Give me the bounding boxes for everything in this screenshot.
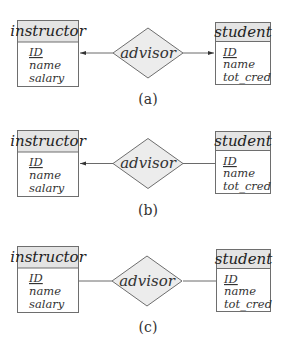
student-entity: student ID name tot_cred (215, 250, 274, 312)
student-entity: student ID name tot_cred (214, 132, 273, 194)
entity-attribute: salary (29, 297, 65, 311)
entity-attribute: name (29, 168, 61, 182)
entity-attribute: tot_cred (223, 179, 271, 193)
instructor-entity: instructor ID name salary (10, 247, 86, 313)
advisor-relationship: advisor (113, 139, 183, 189)
student-entity: student ID name tot_cred (214, 23, 273, 85)
entity-attribute-pk: ID (28, 271, 43, 285)
diagram-caption: (c) (139, 319, 158, 335)
diagram-a: instructor ID name salary advisor studen… (10, 21, 273, 108)
entity-attribute: name (223, 166, 255, 180)
entity-attribute: name (29, 284, 61, 298)
entity-attribute: tot_cred (224, 297, 272, 311)
entity-attribute: name (224, 284, 256, 298)
entity-attribute: salary (29, 181, 65, 195)
entity-title: student (214, 23, 273, 41)
diagram-b: instructor ID name salary advisor studen… (10, 131, 273, 219)
relationship-label: advisor (120, 44, 177, 62)
relationship-label: advisor (120, 154, 177, 172)
relationship-label: advisor (119, 272, 176, 290)
arrowhead-icon (80, 162, 86, 166)
entity-attribute-pk: ID (28, 45, 43, 59)
diagram-caption: (a) (138, 91, 157, 107)
arrowhead-icon (208, 51, 214, 55)
diagram-caption: (b) (138, 202, 158, 218)
entity-attribute: name (29, 58, 61, 72)
entity-title: student (215, 250, 274, 268)
entity-attribute: salary (29, 71, 65, 85)
instructor-entity: instructor ID name salary (10, 21, 86, 87)
diagram-c: instructor ID name salary advisor studen… (10, 247, 273, 336)
entity-attribute: name (223, 57, 255, 71)
entity-title: instructor (10, 132, 86, 150)
er-diagram-canvas: instructor ID name salary advisor studen… (0, 0, 286, 355)
entity-title: instructor (10, 22, 86, 40)
entity-attribute: tot_cred (223, 70, 271, 84)
advisor-relationship: advisor (113, 28, 183, 78)
entity-title: instructor (10, 248, 86, 266)
arrowhead-icon (80, 51, 86, 55)
instructor-entity: instructor ID name salary (10, 131, 86, 197)
entity-title: student (214, 132, 273, 150)
advisor-relationship: advisor (112, 256, 182, 306)
entity-attribute-pk: ID (28, 155, 43, 169)
